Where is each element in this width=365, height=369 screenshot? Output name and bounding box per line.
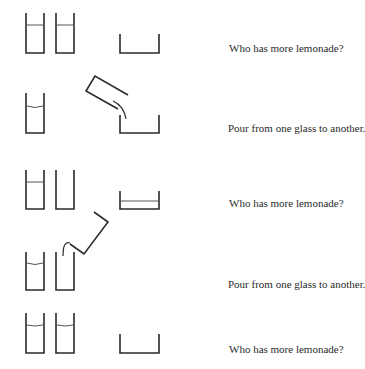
caption-row-1: Who has more lemonade? — [229, 42, 344, 54]
liquid-line — [27, 263, 43, 265]
tilted-glass-pouring — [86, 76, 128, 109]
tall-glass-b — [56, 313, 74, 353]
wide-glass-full — [120, 191, 159, 209]
tall-glass-b — [56, 13, 74, 53]
tall-glass-a — [26, 93, 44, 133]
row-5-illustration — [26, 313, 159, 353]
tall-glass-a — [26, 252, 44, 290]
tall-glass-a — [26, 13, 44, 53]
caption-row-5: Who has more lemonade? — [229, 343, 344, 355]
caption-row-3: Who has more lemonade? — [229, 197, 344, 209]
row-3-illustration — [26, 170, 159, 209]
liquid-line — [57, 325, 73, 326]
row-1-illustration — [26, 13, 159, 53]
tall-glass-empty — [56, 170, 74, 209]
row-4-illustration — [26, 212, 108, 290]
caption-row-2: Pour from one glass to another. — [228, 122, 365, 134]
row-2-illustration — [26, 76, 159, 133]
wide-glass-empty — [120, 334, 159, 353]
tall-glass-a — [26, 313, 44, 353]
liquid-line — [27, 106, 43, 108]
wide-glass-empty — [120, 34, 159, 53]
tall-glass-a — [26, 170, 44, 209]
conservation-diagram — [0, 0, 365, 369]
tilted-glass-pouring-back — [70, 212, 108, 254]
caption-row-4: Pour from one glass to another. — [228, 278, 365, 290]
pour-stream — [63, 243, 70, 256]
liquid-line — [27, 325, 43, 326]
tall-glass-filling — [56, 252, 74, 290]
